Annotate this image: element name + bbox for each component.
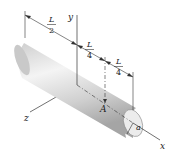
svg-text:4: 4 bbox=[116, 68, 121, 77]
x-axis-label: x bbox=[160, 141, 165, 151]
svg-text:L: L bbox=[48, 15, 54, 24]
svg-text:4: 4 bbox=[87, 51, 92, 60]
y-axis-label: y bbox=[67, 12, 74, 22]
point-A-label: A bbox=[99, 104, 107, 114]
svg-text:L: L bbox=[86, 40, 92, 49]
rod bbox=[11, 43, 146, 139]
z-axis-label: z bbox=[23, 113, 29, 123]
svg-text:L: L bbox=[115, 57, 121, 66]
radius-label: a bbox=[136, 123, 141, 132]
rod-diagram: y z x A a L 2 L 4 L 4 bbox=[0, 0, 178, 153]
svg-text:2: 2 bbox=[49, 26, 54, 35]
